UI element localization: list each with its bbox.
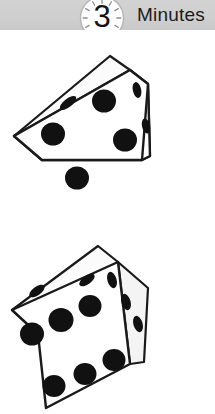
die-upper (8, 48, 168, 220)
die-lower (2, 238, 174, 414)
dice-illustration-stage (0, 30, 215, 414)
header-title: Minutes (137, 2, 205, 28)
header-bar: Minutes 3 (0, 0, 215, 30)
